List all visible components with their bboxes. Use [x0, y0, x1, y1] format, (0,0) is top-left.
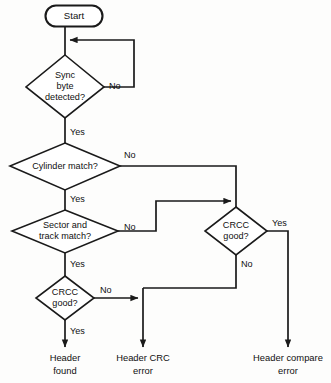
node-crcc-right-label-line2: good?: [223, 231, 248, 241]
node-sync-label-line2: byte: [56, 81, 73, 91]
terminal-header-compare-error-line1: Header compare: [253, 352, 323, 363]
flowchart-canvas: Start Sync byte detected? Cylinder match…: [0, 0, 331, 383]
edge-label-crcc-right-no: No: [241, 259, 253, 269]
node-start-label: Start: [64, 10, 85, 21]
terminal-header-found-line1: Header: [50, 352, 81, 363]
node-cylinder-label: Cylinder match?: [32, 161, 98, 171]
figure-caption: [0, 373, 331, 383]
edge-label-sync-no: No: [109, 81, 121, 91]
edge-label-cylinder-yes: Yes: [70, 194, 85, 204]
edge-label-sector-no: No: [124, 222, 136, 232]
edge-label-sector-yes: Yes: [70, 259, 85, 269]
node-sync-label-line3: detected?: [45, 92, 85, 102]
node-sync-label-line1: Sync: [55, 70, 76, 80]
edge-label-crcc-left-no: No: [100, 285, 112, 295]
node-crcc-right-label-line1: CRCC: [223, 220, 250, 230]
node-crcc-left-label-line1: CRCC: [52, 287, 79, 297]
edge-label-crcc-left-yes: Yes: [70, 326, 85, 336]
node-crcc-left-label-line2: good?: [52, 298, 77, 308]
edge-label-sync-yes: Yes: [70, 127, 85, 137]
node-sector-label-line2: track match?: [39, 231, 91, 241]
edge-to-header-compare-error: [267, 231, 288, 347]
terminal-header-crc-error-line1: Header CRC: [116, 352, 170, 363]
flowchart-svg: Start Sync byte detected? Cylinder match…: [0, 0, 331, 383]
edge-crcc-right-no: [143, 255, 236, 288]
node-sector-label-line1: Sector and: [43, 220, 87, 230]
edge-label-crcc-right-yes: Yes: [272, 218, 287, 228]
edge-label-cylinder-no: No: [124, 150, 136, 160]
